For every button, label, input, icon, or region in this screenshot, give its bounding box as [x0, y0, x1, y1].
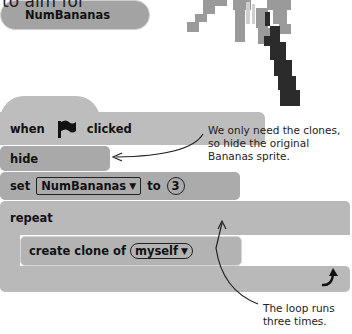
repeat-block-bottom [0, 266, 350, 292]
hide-label: hide [10, 152, 38, 166]
hide-block[interactable]: hide [0, 146, 110, 171]
hat-suffix: clicked [87, 122, 132, 136]
create-clone-label: create clone of [29, 244, 126, 258]
clone-target-dropdown[interactable]: myself ▼ [130, 243, 193, 259]
variable-dropdown[interactable]: NumBananas ▼ [36, 177, 141, 195]
green-flag-icon [55, 119, 77, 139]
dropdown-caret-icon: ▼ [181, 246, 188, 256]
clone-target: myself [135, 244, 178, 258]
set-label: set [10, 179, 30, 193]
value-input[interactable]: 3 [167, 177, 185, 195]
variable-name: NumBananas [41, 179, 126, 193]
hide-annotation: We only need the clones, so hide the ori… [208, 124, 352, 163]
set-variable-block[interactable]: set NumBananas ▼ to 3 [0, 172, 240, 200]
hat-prefix: when [10, 122, 45, 136]
dropdown-caret-icon: ▼ [129, 181, 136, 191]
create-clone-block[interactable]: create clone of myself ▼ [20, 236, 242, 266]
repeat-block[interactable]: repeat [0, 201, 350, 235]
to-label: to [147, 179, 160, 193]
loop-annotation: The loop runs three times. [263, 302, 352, 328]
repeat-block-arm [0, 233, 20, 269]
repeat-label: repeat [10, 211, 53, 225]
